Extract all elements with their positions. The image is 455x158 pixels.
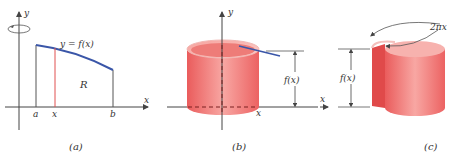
panel-c: x 2πx f(x) (c) xyxy=(320,22,447,152)
circumference-label: 2πx xyxy=(429,22,447,32)
curve-label: y = f(x) xyxy=(59,39,94,49)
tick-b-label: b xyxy=(110,109,116,119)
panel-b: y x f(x) (b) xyxy=(167,7,318,152)
diagram-canvas: y x y = f(x) R a x b (a) y x f(x) (b xyxy=(0,0,455,158)
x-axis-label: x xyxy=(320,94,325,104)
cylinder-body xyxy=(187,49,259,115)
height-label: f(x) xyxy=(339,73,356,83)
x-axis-label: x xyxy=(144,95,149,105)
caption-c: (c) xyxy=(424,141,438,152)
panel-a: y x y = f(x) R a x b (a) xyxy=(5,8,149,152)
x-axis-label: x xyxy=(256,108,261,118)
shell-cut-edge xyxy=(372,44,385,108)
cylinder-opening xyxy=(191,43,255,57)
caption-a: (a) xyxy=(69,141,83,152)
shell-top xyxy=(385,41,445,57)
region-label: R xyxy=(79,79,88,90)
y-axis-label: y xyxy=(23,8,30,18)
shell-body xyxy=(385,49,445,116)
tick-x-label: x xyxy=(52,109,57,119)
height-label: f(x) xyxy=(283,75,300,85)
y-axis-label: y xyxy=(227,7,234,17)
caption-b: (b) xyxy=(232,141,246,152)
tick-a-label: a xyxy=(33,109,38,119)
